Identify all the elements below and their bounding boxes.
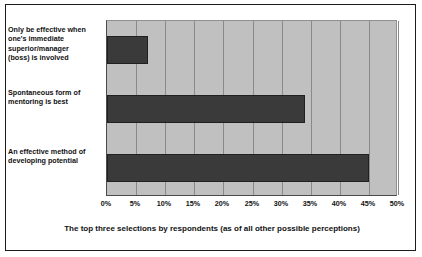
- category-label-line: Only be effective when: [8, 25, 104, 34]
- x-tick-label: 45%: [361, 199, 375, 208]
- x-tick-label: 35%: [303, 199, 317, 208]
- x-tick-label: 20%: [215, 199, 229, 208]
- category-label-line: mentoring is best: [8, 97, 104, 106]
- category-label-line: developing potential: [8, 156, 104, 165]
- x-tick-label: 25%: [245, 199, 259, 208]
- plot-area: [106, 20, 397, 196]
- category-label-an-effective-method: An effective method of developing potent…: [8, 147, 104, 166]
- x-tick-label: 10%: [157, 199, 171, 208]
- category-axis-labels: An effective method of developing potent…: [8, 20, 104, 196]
- x-axis-title: The top three selections by respondents …: [16, 224, 408, 233]
- chart-figure: An effective method of developing potent…: [0, 0, 422, 257]
- x-tick-label: 5%: [130, 199, 140, 208]
- bar: [107, 36, 148, 64]
- x-tick-label: 40%: [332, 199, 346, 208]
- x-axis-tick-labels: 0%5%10%15%20%25%30%35%40%45%50%: [106, 199, 397, 211]
- category-label-line: An effective method of: [8, 147, 104, 156]
- x-tick-label: 0%: [101, 199, 111, 208]
- category-label-line: (boss) is involved: [8, 53, 104, 62]
- bar-series: [107, 21, 396, 195]
- category-label-line: Spontaneous form of: [8, 88, 104, 97]
- gridline: [398, 21, 399, 195]
- bar: [107, 154, 369, 182]
- category-label-line: superior/manager: [8, 44, 104, 53]
- x-tick-label: 50%: [390, 199, 404, 208]
- bar: [107, 95, 305, 123]
- category-label-only-be-effective: Only be effective when one's immediate s…: [8, 25, 104, 63]
- x-tick-label: 30%: [274, 199, 288, 208]
- category-label-spontaneous-form: Spontaneous form of mentoring is best: [8, 88, 104, 107]
- x-tick-label: 15%: [186, 199, 200, 208]
- category-label-line: one's immediate: [8, 34, 104, 43]
